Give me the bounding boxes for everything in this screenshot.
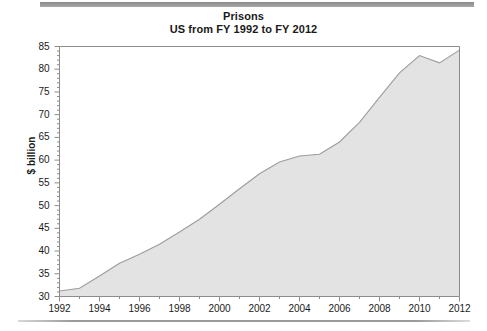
page-divider: [18, 320, 470, 322]
chart-plot-area: [0, 0, 487, 331]
chart-figure: Prisons US from FY 1992 to FY 2012 $ bil…: [0, 0, 487, 331]
area-series-group: [60, 50, 460, 296]
